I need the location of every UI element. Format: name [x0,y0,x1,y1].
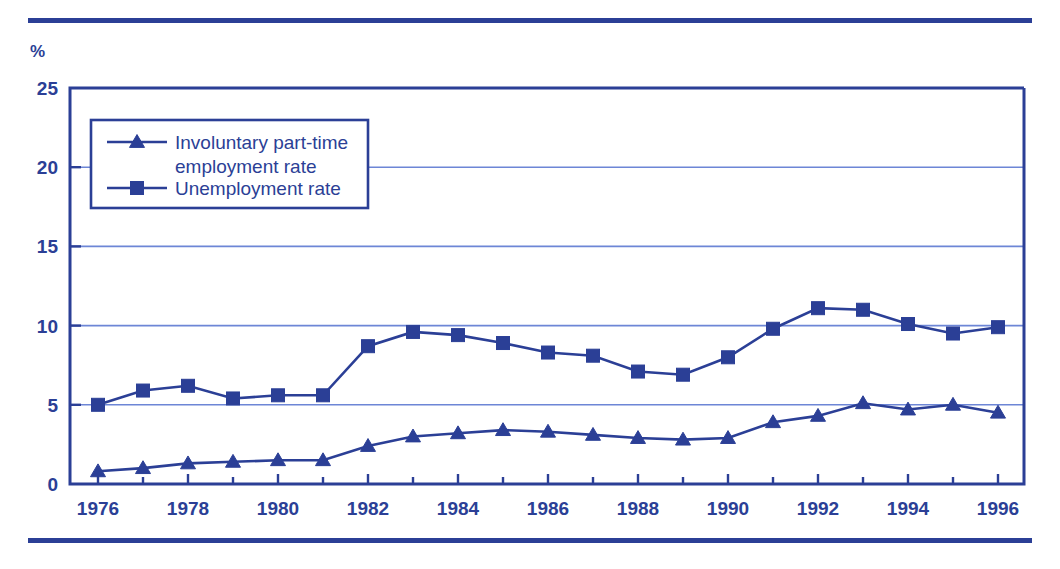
x-tick-labels-group: 1976197819801982198419861988199019921994… [77,498,1019,519]
y-tick-label-5: 5 [47,395,58,416]
y-tick-label-25: 25 [37,78,59,99]
data-point-2-1994 [902,318,915,331]
y-tick-label-20: 20 [37,157,58,178]
x-tick-label-1990: 1990 [707,498,749,519]
series-1 [91,396,1006,477]
data-point-2-1996 [992,321,1005,334]
y-tick-label-0: 0 [47,474,58,495]
data-point-2-1984 [452,329,465,342]
data-point-2-1992 [812,302,825,315]
x-tick-label-1996: 1996 [977,498,1019,519]
y-tick-labels-group: 0510152025 [37,78,59,495]
data-point-2-1981 [317,389,330,402]
x-tick-label-1988: 1988 [617,498,659,519]
data-point-2-1987 [587,349,600,362]
legend-label-1: Involuntary part-time [175,132,348,153]
chart-plot-area: 0510152025 19761978198019821984198619881… [0,0,1060,569]
data-point-2-1977 [137,384,150,397]
data-series-group [91,302,1006,477]
y-tick-label-10: 10 [37,316,58,337]
square-marker [131,182,144,195]
data-point-1-1993 [856,396,871,409]
data-point-2-1976 [92,398,105,411]
x-tick-label-1982: 1982 [347,498,389,519]
data-point-2-1980 [272,389,285,402]
x-tick-label-1994: 1994 [887,498,930,519]
series-2 [92,302,1005,412]
data-point-2-1983 [407,325,420,338]
legend-label-1-line2: employment rate [175,156,317,177]
x-tick-label-1978: 1978 [167,498,209,519]
chart-figure: % 0510152025 197619781980198219841986198… [0,0,1060,569]
x-tick-label-1976: 1976 [77,498,119,519]
data-point-2-1979 [227,392,240,405]
x-tick-label-1992: 1992 [797,498,839,519]
data-point-2-1989 [677,368,690,381]
x-tick-label-1984: 1984 [437,498,480,519]
data-point-2-1993 [857,303,870,316]
data-point-2-1990 [722,351,735,364]
data-point-2-1991 [767,322,780,335]
legend-label-2: Unemployment rate [175,178,341,199]
y-tick-label-15: 15 [37,236,59,257]
data-point-1-1995 [946,397,961,410]
x-tick-label-1980: 1980 [257,498,299,519]
data-point-2-1986 [542,346,555,359]
data-point-2-1978 [182,379,195,392]
chart-legend: Involuntary part-timeemployment rateUnem… [91,120,368,208]
data-point-2-1988 [632,365,645,378]
data-point-2-1995 [947,327,960,340]
x-tick-label-1986: 1986 [527,498,569,519]
data-point-2-1982 [362,340,375,353]
data-point-2-1985 [497,337,510,350]
